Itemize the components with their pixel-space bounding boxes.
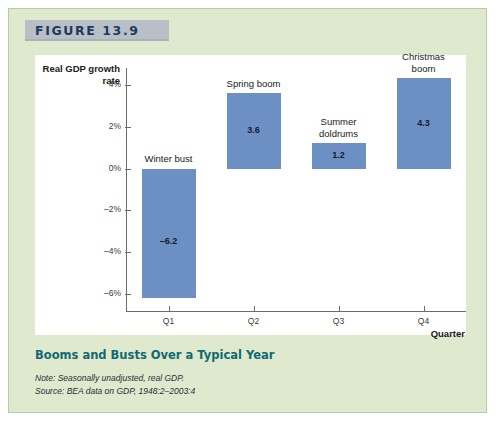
y-tick-mark — [125, 169, 131, 170]
bar-annotation: Christmas boom — [376, 51, 472, 74]
y-tick: –6% — [35, 294, 134, 295]
figure-caption-title: Booms and Busts Over a Typical Year — [35, 348, 274, 362]
x-tick-mark — [254, 306, 255, 311]
x-axis-title: Quarter — [365, 328, 465, 339]
bar-q4[interactable]: 4.3 — [397, 78, 451, 168]
y-tick-mark — [125, 127, 131, 128]
bar-q2[interactable]: 3.6 — [227, 93, 281, 168]
bar-q3[interactable]: 1.2 — [312, 143, 366, 168]
figure-number-label: FIGURE 13.9 — [35, 23, 140, 38]
bar-value-label: –6.2 — [142, 236, 196, 246]
bar-value-label: 4.3 — [397, 118, 451, 128]
figure-panel: FIGURE 13.9 Real GDP growth rate 4%2%0%–… — [8, 8, 487, 413]
bar-annotation: Spring boom — [206, 78, 302, 90]
y-tick-label: 0% — [109, 163, 121, 173]
y-tick-label: 4% — [109, 79, 121, 89]
x-tick-label: Q3 — [325, 316, 353, 326]
y-tick: 0% — [35, 169, 134, 170]
bar-value-label: 1.2 — [312, 150, 366, 160]
y-tick-label: –4% — [104, 246, 121, 256]
chart-plot-area: Real GDP growth rate 4%2%0%–2%–4%–6% Q1Q… — [35, 55, 466, 335]
y-tick: –4% — [35, 252, 134, 253]
y-tick-mark — [125, 85, 131, 86]
x-axis-line — [126, 311, 466, 312]
x-tick-label: Q4 — [410, 316, 438, 326]
x-tick-mark — [169, 306, 170, 311]
x-tick-mark — [339, 306, 340, 311]
y-tick-label: 2% — [109, 121, 121, 131]
bar-annotation: Summer doldrums — [291, 116, 387, 139]
y-tick-label: –6% — [104, 288, 121, 298]
x-tick-mark — [424, 306, 425, 311]
y-tick: 4% — [35, 85, 134, 86]
y-axis-title: Real GDP growth rate — [35, 63, 120, 86]
y-tick: –2% — [35, 210, 134, 211]
y-tick-mark — [125, 294, 131, 295]
y-tick-label: –2% — [104, 204, 121, 214]
bar-value-label: 3.6 — [227, 125, 281, 135]
y-tick-mark — [125, 210, 131, 211]
figure-source: Source: BEA data on GDP, 1948:2–2003:4 — [35, 386, 195, 396]
y-tick-mark — [125, 252, 131, 253]
figure-note: Note: Seasonally unadjusted, real GDP. — [35, 373, 184, 383]
bar-q1[interactable]: –6.2 — [142, 169, 196, 299]
x-tick-label: Q1 — [155, 316, 183, 326]
y-axis-line — [126, 68, 127, 312]
y-tick: 2% — [35, 127, 134, 128]
x-tick-label: Q2 — [240, 316, 268, 326]
bar-annotation: Winter bust — [121, 153, 217, 165]
figure-header-band: FIGURE 13.9 — [25, 20, 169, 41]
